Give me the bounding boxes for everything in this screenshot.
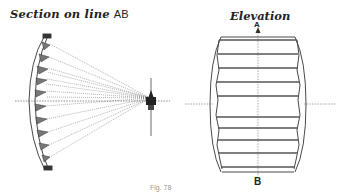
diagram-canvas	[0, 0, 341, 195]
arrow-up-icon	[256, 27, 261, 33]
lens-prisms	[35, 42, 50, 162]
lamp-icon	[146, 78, 156, 136]
light-rays	[46, 44, 150, 157]
